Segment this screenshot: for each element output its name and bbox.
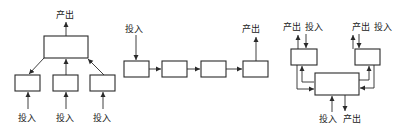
seq-box-1	[124, 61, 149, 77]
sub-box-right	[90, 75, 115, 91]
bottom-output-label: 产出	[343, 113, 361, 124]
panel-hierarchical: 产出 投入 投入 投入	[15, 9, 115, 123]
sequential-output-label: 产出	[242, 23, 260, 34]
right-output-label: 产出	[352, 21, 370, 32]
left-output-label: 产出	[283, 21, 301, 32]
central-box	[44, 36, 88, 58]
sub-box-middle	[53, 75, 78, 91]
seq-box-4	[243, 61, 268, 77]
input-label-right: 投入	[93, 112, 111, 123]
left-to-central-arrow	[297, 65, 314, 89]
right-to-central-arrow	[360, 65, 374, 88]
seq-box-3	[201, 61, 226, 77]
left-input-label: 投入	[305, 21, 323, 32]
sequential-input-label: 投入	[125, 23, 143, 34]
panel-sequential: 投入 产出	[124, 23, 268, 77]
arrow-center-to-left	[29, 58, 44, 74]
central-unit-box	[315, 73, 359, 95]
input-label-middle: 投入	[56, 112, 74, 123]
panel-reciprocal: 产出 投入 产出 投入 投入 产出	[283, 21, 392, 124]
sub-box-left	[15, 75, 40, 91]
left-unit-box	[291, 49, 317, 65]
arrow-right-to-center	[88, 59, 104, 75]
interdependence-diagram: 产出 投入 投入 投入 投入 产出 产出 投入 产出 投	[0, 0, 403, 132]
seq-box-2	[162, 61, 187, 77]
bottom-input-label: 投入	[319, 113, 337, 124]
top-output-label: 产出	[56, 9, 74, 20]
right-unit-box	[355, 49, 380, 65]
central-to-right-arrow	[359, 66, 369, 80]
input-label-left: 投入	[18, 112, 36, 123]
right-input-label: 投入	[374, 21, 392, 32]
central-to-left-arrow	[302, 66, 314, 82]
